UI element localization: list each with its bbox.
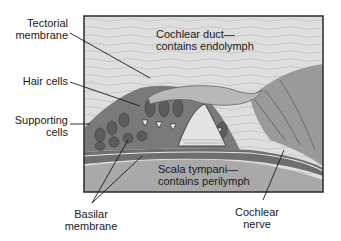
label-cochlear-nerve: Cochlear nerve xyxy=(226,206,288,230)
label-cochlear-duct: Cochlear duct— contains endolymph xyxy=(156,28,254,52)
label-hair-cells: Hair cells xyxy=(6,75,68,87)
label-tectorial-membrane: Tectorial membrane xyxy=(6,17,68,41)
label-supporting-cells: Supporting cells xyxy=(6,114,68,138)
label-basilar-membrane: Basilar membrane xyxy=(60,208,122,232)
label-scala-tympani: Scala tympani— contains perilymph xyxy=(158,163,250,187)
